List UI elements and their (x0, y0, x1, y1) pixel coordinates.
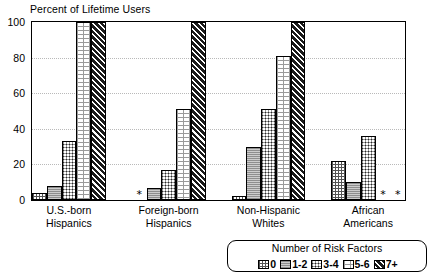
bar-group: ** (331, 22, 405, 200)
bar-group (232, 22, 306, 200)
y-axis-tick-label: 80 (0, 53, 25, 64)
bar (161, 170, 176, 200)
bar (361, 136, 376, 200)
legend-swatch-icon (280, 260, 291, 269)
legend-label: 3-4 (323, 258, 338, 270)
legend-swatch-icon (311, 260, 322, 269)
bar (291, 22, 306, 200)
y-axis-tick-label: 100 (0, 17, 25, 28)
category-label-line: Whites (214, 217, 324, 230)
legend-label: 5-6 (355, 258, 370, 270)
bar (32, 193, 47, 200)
bar (246, 147, 261, 200)
chart-title: Percent of Lifetime Users (30, 3, 150, 15)
bar (232, 196, 247, 200)
plot-area: *** (31, 21, 406, 201)
bar (191, 22, 206, 200)
bar (176, 109, 191, 200)
legend-label: 1-2 (292, 258, 307, 270)
legend-item: 7+ (374, 258, 398, 270)
category-label-line: Foreign-born (114, 204, 224, 217)
suppressed-marker: * (376, 189, 391, 200)
category-label-line: Hispanics (114, 217, 224, 230)
bar-group: * (132, 22, 206, 200)
category-label: AfricanAmericans (313, 204, 423, 229)
category-label-line: Americans (313, 217, 423, 230)
bar (62, 141, 77, 200)
bar (47, 186, 62, 200)
category-label-line: U.S.-born (14, 204, 124, 217)
chart-legend: Number of Risk Factors 01-23-45-67+ (227, 240, 427, 272)
bar-group (32, 22, 106, 200)
bar (346, 182, 361, 200)
category-label-line: Hispanics (14, 217, 124, 230)
legend-item: 0 (258, 258, 276, 270)
legend-label: 7+ (386, 258, 398, 270)
category-label: U.S.-bornHispanics (14, 204, 124, 229)
category-label-line: African (313, 204, 423, 217)
chart-root: Percent of Lifetime Users *** 0204060801… (0, 0, 434, 275)
legend-swatch-icon (374, 260, 385, 269)
y-axis-tick-label: 20 (0, 159, 25, 170)
y-axis-tick-label: 60 (0, 88, 25, 99)
legend-item: 3-4 (311, 258, 338, 270)
y-axis-tick-label: 40 (0, 124, 25, 135)
bar (76, 22, 91, 200)
legend-item: 1-2 (280, 258, 307, 270)
category-label-line: Non-Hispanic (214, 204, 324, 217)
legend-label: 0 (270, 258, 276, 270)
legend-swatch-icon (258, 260, 269, 269)
legend-title: Number of Risk Factors (228, 242, 426, 254)
category-label: Foreign-bornHispanics (114, 204, 224, 229)
legend-swatch-icon (343, 260, 354, 269)
bar (91, 22, 106, 200)
bar (147, 188, 162, 200)
suppressed-marker: * (390, 189, 405, 200)
suppressed-marker: * (132, 189, 147, 200)
bar (261, 109, 276, 200)
bar (276, 56, 291, 200)
legend-item: 5-6 (343, 258, 370, 270)
legend-items: 01-23-45-67+ (231, 257, 425, 271)
bar (331, 161, 346, 200)
category-label: Non-HispanicWhites (214, 204, 324, 229)
